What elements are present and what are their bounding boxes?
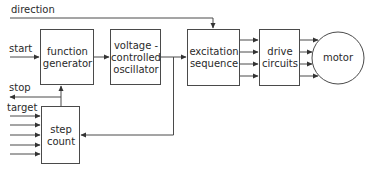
excitation-sequence-text: excitation sequence [188,30,240,86]
stop-label: stop [9,82,31,93]
step-count-line2: count [47,136,75,148]
step-count-text: step count [42,107,80,164]
vco-line2: controlled [111,52,161,64]
excitation-line2: sequence [190,58,238,70]
vco-line3: oscillator [113,64,158,76]
drive-circuits-text: drive circuits [260,30,300,86]
drive-line1: drive [267,46,292,58]
function-generator-text: function generator [41,30,94,85]
vco-line1: voltage - [114,40,158,52]
function-generator-line2: generator [43,58,92,70]
motor-label: motor [323,52,353,64]
direction-line [10,18,213,28]
start-label: start [9,43,32,54]
excitation-line1: excitation [189,46,238,58]
excitation-to-drive-arrows [240,40,258,76]
step-count-line1: step [50,124,72,136]
vco-text: voltage - controlled oscillator [111,30,161,85]
target-input-arrows [10,116,40,154]
function-generator-line1: function [47,46,88,58]
drive-line2: circuits [262,58,298,70]
motor-text: motor [312,32,364,84]
target-label: target [7,102,37,113]
direction-label: direction [11,4,55,15]
